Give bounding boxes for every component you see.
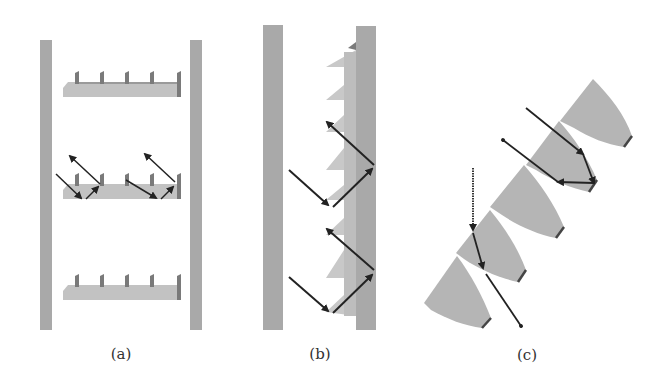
sawtooth-prism-b — [326, 42, 356, 316]
sawtooth-shelf-middle — [63, 173, 181, 199]
right-wall-a — [190, 40, 202, 330]
sawtooth-shelf-top — [63, 71, 181, 97]
sawtooth-shelf-bottom — [63, 274, 181, 300]
panel-label-c: (c) — [517, 346, 537, 364]
curved-wedge-array — [424, 79, 632, 328]
panel-label-a: (a) — [111, 345, 132, 363]
panel-b — [263, 25, 376, 330]
right-wall-b — [356, 26, 376, 330]
optics-figure — [0, 0, 671, 391]
panel-c — [424, 79, 632, 328]
left-wall-a — [40, 40, 52, 330]
panel-a — [40, 40, 202, 330]
panel-label-b: (b) — [309, 345, 330, 363]
left-wall-b — [263, 25, 283, 330]
